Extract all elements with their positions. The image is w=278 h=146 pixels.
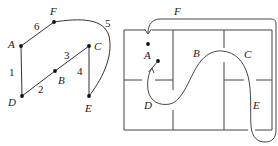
vertex-label-E: E [84,102,92,114]
vertex-D [20,94,24,98]
vertex-F [52,20,56,24]
vertex-label-A: A [7,38,15,50]
room-label-F: F [173,5,181,17]
path-start-dot [156,59,160,63]
room-label-D: D [143,99,152,111]
vertex-label-B: B [58,74,65,86]
vertex-label-C: C [94,40,102,52]
edge-label-1: 1 [9,66,15,78]
room-label-E: E [252,99,260,111]
edge-label-3: 3 [64,49,70,61]
vertex-B [53,69,57,73]
room-label-B: B [193,47,200,59]
edge-label-5: 5 [105,17,111,29]
vertex-label-F: F [49,5,57,17]
diagram-canvas: A F C B D E 1 2 3 4 5 6 [0,0,278,146]
vertex-A [19,44,23,48]
edge-label-6: 6 [34,20,40,32]
vertex-label-D: D [7,96,16,108]
path-end-dot [146,42,150,46]
room-label-A: A [143,49,151,61]
edge-label-4: 4 [77,65,83,77]
vertex-E [87,94,91,98]
edge-3-BC [55,46,89,71]
edge-1-AD [21,46,22,96]
graph: A F C B D E 1 2 3 4 5 6 [7,5,111,114]
edge-label-2: 2 [38,83,44,95]
room-label-C: C [244,48,252,60]
vertex-C [87,44,91,48]
floorplan: A B C D E F [124,5,276,142]
